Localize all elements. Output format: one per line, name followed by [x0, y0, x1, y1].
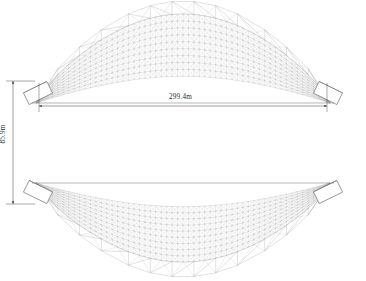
bridge-elevation-drawing	[0, 0, 366, 281]
lower-arch-truss	[36, 183, 330, 277]
rise-dimension-label: 85.9m	[0, 122, 7, 145]
span-dimension-label: 299.4m	[167, 93, 194, 101]
upper-arch-truss	[36, 2, 330, 103]
deck-chords	[32, 103, 334, 183]
drawing-canvas: 299.4m 85.9m	[0, 0, 366, 281]
